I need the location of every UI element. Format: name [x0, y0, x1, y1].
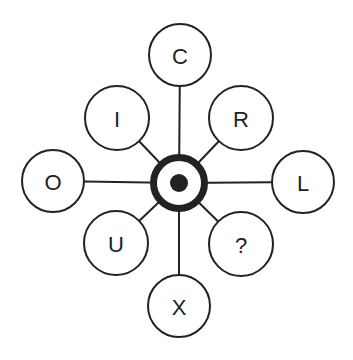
radial-letter-diagram: CIROLU?X [0, 0, 353, 360]
node-top: C [149, 24, 211, 86]
node-top-left: I [85, 86, 149, 150]
node-left: O [22, 150, 84, 212]
node-label: C [172, 44, 188, 69]
hub-target-icon [154, 158, 205, 209]
hub-dot [170, 174, 188, 192]
node-label: U [108, 232, 124, 257]
node-label: ? [235, 233, 247, 258]
node-bottom-left: U [84, 211, 148, 275]
node-label: I [114, 107, 120, 132]
node-bottom: X [148, 275, 210, 337]
node-right: L [272, 151, 334, 213]
node-label: R [233, 107, 249, 132]
node-label: X [172, 295, 187, 320]
node-top-right: R [209, 86, 273, 150]
node-label: L [297, 171, 309, 196]
node-label: O [44, 170, 61, 195]
node-bottom-right: ? [209, 212, 273, 276]
